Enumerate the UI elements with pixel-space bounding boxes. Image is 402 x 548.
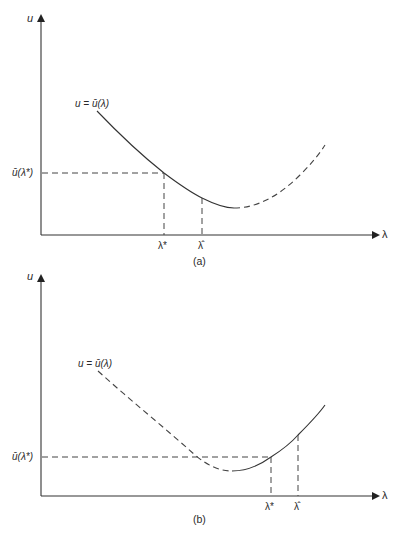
panel-b-x-axis-label: λ	[382, 490, 388, 501]
panel-b-y-marker-label: ū(λ*)	[12, 452, 33, 462]
panel-b-curve-label: u = ū(λ)	[78, 359, 112, 369]
panel-b-caption: (b)	[193, 514, 206, 525]
panel-b	[41, 276, 378, 496]
panel-b-curve-dashed	[98, 371, 232, 471]
panel-b-curve-solid	[232, 405, 325, 471]
panel-a-curve-dashed	[234, 145, 325, 208]
panel-a-x-axis-label: λ	[382, 229, 388, 240]
panel-b-lambda-hat-label: λ̂	[294, 502, 299, 512]
panel-a-y-marker-label: ū(λ*)	[12, 168, 33, 178]
figure-canvas	[0, 0, 402, 548]
panel-b-y-axis-label: u	[27, 271, 33, 282]
panel-a-y-axis-label: u	[27, 13, 33, 24]
panel-a-lambda-hat-label: λ̂	[198, 241, 203, 251]
panel-a-curve-solid	[97, 111, 234, 208]
panel-a	[41, 16, 378, 235]
panel-a-curve-label: u = ū(λ)	[75, 99, 109, 109]
panel-b-lambda-star-label: λ*	[265, 502, 274, 512]
panel-a-lambda-star-label: λ*	[158, 241, 167, 251]
panel-a-caption: (a)	[193, 256, 206, 267]
